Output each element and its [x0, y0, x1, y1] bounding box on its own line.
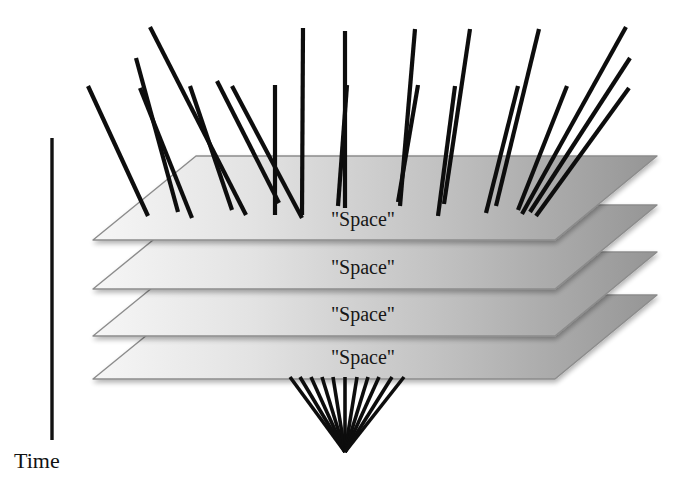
space-plane-label: "Space": [331, 346, 395, 369]
lower-worldlines-cone-group: [290, 377, 404, 452]
upper-worldline: [302, 28, 303, 215]
space-plane-label: "Space": [331, 256, 395, 279]
time-axis-caption: Time: [14, 448, 60, 473]
space-plane-label: "Space": [331, 303, 395, 326]
upper-worldline: [88, 86, 148, 216]
spacetime-diagram-canvas: "Space""Space""Space""Space" Time: [0, 0, 687, 497]
space-plane-label: "Space": [331, 208, 395, 231]
spacetime-diagram-figure: "Space""Space""Space""Space" Time: [0, 0, 687, 497]
